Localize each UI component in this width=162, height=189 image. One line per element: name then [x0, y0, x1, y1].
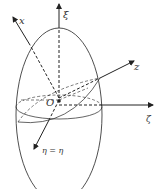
x-axis-label: x: [19, 15, 25, 26]
zeta-axis-label: ζ: [146, 114, 152, 124]
eta-axis-label: η = η: [42, 146, 64, 155]
origin-label: O: [46, 97, 54, 108]
origin-point: [57, 99, 61, 103]
aux-dashed-line: [59, 88, 88, 100]
xi-axis-label: ξ: [63, 9, 69, 20]
z-axis-dashed: [59, 78, 100, 98]
z-axis-solid: [100, 61, 134, 78]
equator-front: [16, 107, 102, 119]
z-axis-label: z: [133, 61, 140, 72]
ellipsoid-diagram: x ξ z ζ η = η O: [0, 0, 162, 189]
x-axis-dashed: [30, 45, 59, 98]
eta-axis-solid: [34, 120, 49, 149]
